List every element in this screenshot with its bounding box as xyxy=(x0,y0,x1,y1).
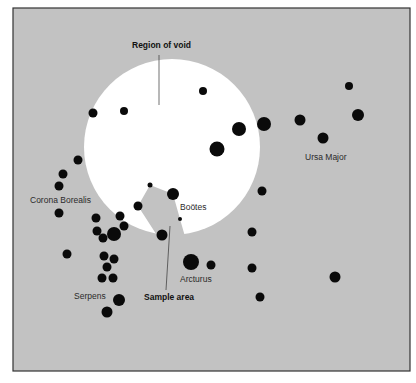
star-dot xyxy=(295,115,306,126)
star-dot xyxy=(103,263,112,272)
serpens-label: Serpens xyxy=(74,291,106,301)
star-dot xyxy=(178,217,182,221)
star-dot xyxy=(157,230,168,241)
star-dot xyxy=(258,187,267,196)
region-of-void-label: Region of void xyxy=(132,40,191,50)
star-dot xyxy=(120,222,129,231)
star-dot xyxy=(55,182,64,191)
star-dot xyxy=(352,109,364,121)
star-dot xyxy=(109,274,118,283)
star-dot xyxy=(134,202,143,211)
corona-borealis-label: Corona Borealis xyxy=(30,195,91,205)
bootes-label: Boötes xyxy=(180,202,206,212)
star-dot xyxy=(55,209,64,218)
star-dot xyxy=(232,122,246,136)
void-diagram: Region of void Ursa Major Corona Boreali… xyxy=(0,0,416,383)
ursa-major-label: Ursa Major xyxy=(305,152,347,162)
arcturus-label: Arcturus xyxy=(180,274,212,284)
star-dot xyxy=(98,274,107,283)
star-dot xyxy=(148,183,153,188)
star-dot xyxy=(113,294,125,306)
star-dot xyxy=(59,170,68,179)
star-dot xyxy=(330,272,341,283)
star-dot xyxy=(183,254,199,270)
star-dot xyxy=(120,107,128,115)
star-dot xyxy=(199,87,207,95)
star-dot xyxy=(248,264,257,273)
star-dot xyxy=(100,252,109,261)
star-dot xyxy=(210,142,225,157)
star-dot xyxy=(257,117,271,131)
star-dot xyxy=(102,307,113,318)
star-dot xyxy=(248,228,257,237)
star-dot xyxy=(92,214,101,223)
star-dot xyxy=(74,156,83,165)
sample-area-label: Sample area xyxy=(144,292,194,302)
star-dot xyxy=(99,234,108,243)
star-dot xyxy=(63,250,72,259)
star-dot xyxy=(89,109,98,118)
star-dot xyxy=(256,293,265,302)
star-dot xyxy=(107,227,121,241)
star-dot xyxy=(110,255,119,264)
star-dot xyxy=(318,133,329,144)
star-dot xyxy=(93,227,102,236)
star-dot xyxy=(207,261,216,270)
star-dot xyxy=(345,82,353,90)
star-dot xyxy=(167,188,179,200)
star-dot xyxy=(116,212,125,221)
